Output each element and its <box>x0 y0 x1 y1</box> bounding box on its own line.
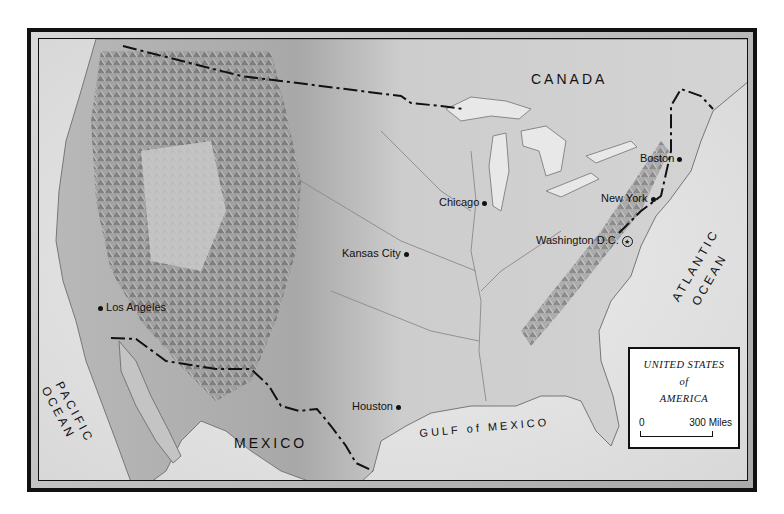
map-legend: UNITED STATES of AMERICA 0 300 Miles <box>628 347 740 449</box>
city-dot-icon <box>396 405 401 410</box>
city-kansas-city[interactable]: Kansas City <box>342 247 409 259</box>
city-dot-icon <box>482 201 487 206</box>
legend-title-line1: UNITED STATES <box>630 359 738 370</box>
scale-end-label: 300 Miles <box>689 417 732 428</box>
city-dot-icon <box>404 252 409 257</box>
city-dot-icon <box>651 197 656 202</box>
label-canada: CANADA <box>531 71 607 87</box>
city-dot-icon <box>677 157 682 162</box>
city-label: Boston <box>640 152 674 164</box>
city-label: Houston <box>352 400 393 412</box>
city-boston[interactable]: Boston <box>640 152 682 164</box>
city-dot-icon <box>98 306 103 311</box>
city-label: Kansas City <box>342 247 401 259</box>
city-label: Chicago <box>439 196 479 208</box>
capital-star-icon: ★ <box>622 236 633 247</box>
label-mexico: MEXICO <box>234 435 307 451</box>
city-washington-dc[interactable]: Washington D.C. ★ <box>536 234 633 247</box>
scale-bar <box>640 431 713 437</box>
legend-title-line2: of <box>630 376 738 387</box>
city-new-york[interactable]: New York <box>601 192 656 204</box>
legend-title-line3: AMERICA <box>630 393 738 404</box>
city-label: Washington D.C. <box>536 234 619 246</box>
scale-start-label: 0 <box>639 417 645 428</box>
city-houston[interactable]: Houston <box>352 400 401 412</box>
city-label: New York <box>601 192 647 204</box>
city-chicago[interactable]: Chicago <box>439 196 487 208</box>
city-label: Los Angeles <box>106 301 166 313</box>
city-los-angeles[interactable]: Los Angeles <box>98 301 166 313</box>
